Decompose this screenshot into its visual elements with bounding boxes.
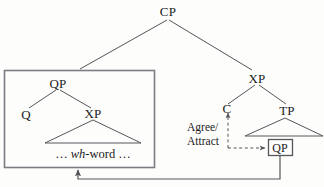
tp-triangle-path — [245, 118, 323, 136]
terminal-italic-wh: wh — [71, 147, 86, 161]
node-qp-moved: QP — [272, 142, 288, 154]
right-xp-branches — [228, 85, 286, 104]
node-c: C — [223, 102, 232, 115]
agree-attract-line1: Agree/ — [187, 120, 219, 134]
node-tp: TP — [279, 104, 295, 117]
terminal-wh-word: … wh-word … — [55, 148, 131, 161]
node-xp-left: XP — [84, 107, 101, 120]
agree-attract-label: Agree/ Attract — [187, 120, 219, 149]
node-q: Q — [21, 108, 31, 121]
terminal-suffix: -word … — [85, 147, 130, 161]
terminal-prefix: … — [55, 147, 71, 161]
left-qp-branches — [29, 90, 91, 108]
node-qp-left: QP — [49, 77, 66, 90]
agree-attract-arrows — [228, 113, 265, 148]
syntax-tree-diagram: CP QP Q XP XP C TP QP … wh-word … Agree/… — [0, 0, 324, 187]
cp-right-branch — [169, 20, 252, 70]
tp-triangle — [245, 118, 323, 136]
node-xp-right: XP — [248, 72, 265, 85]
left-xp-triangle — [45, 120, 141, 143]
qp-to-q-branch — [29, 90, 56, 108]
xp-triangle-path — [45, 120, 141, 143]
xp-to-c-branch — [228, 85, 255, 104]
node-cp: CP — [160, 5, 176, 18]
cp-branches — [80, 20, 252, 70]
xp-to-tp-branch — [259, 85, 286, 104]
cp-left-branch — [80, 20, 167, 69]
agree-attract-line2: Attract — [187, 134, 219, 148]
tree-lines-svg — [0, 0, 324, 187]
